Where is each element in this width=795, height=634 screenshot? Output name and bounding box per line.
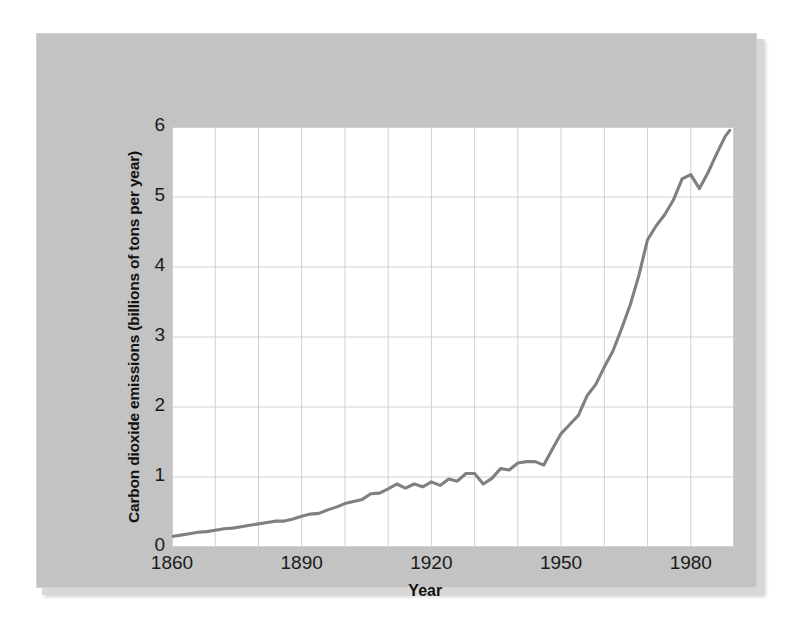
- x-tick-label: 1890: [262, 552, 342, 574]
- plot-svg: [172, 127, 734, 547]
- x-tick-label: 1950: [521, 552, 601, 574]
- chart-panel: Carbon dioxide emissions (billions of to…: [36, 33, 757, 588]
- x-tick-label: 1920: [391, 552, 471, 574]
- plot-area: [172, 127, 734, 547]
- grid-lines: [172, 127, 734, 547]
- x-axis-label-text: Year: [408, 582, 442, 600]
- data-line-co2-emissions: [172, 131, 730, 537]
- figure-root: Carbon dioxide emissions (billions of to…: [0, 0, 795, 634]
- x-axis-label: Year: [37, 582, 758, 600]
- x-tick-label: 1980: [651, 552, 731, 574]
- x-tick-label: 1860: [132, 552, 212, 574]
